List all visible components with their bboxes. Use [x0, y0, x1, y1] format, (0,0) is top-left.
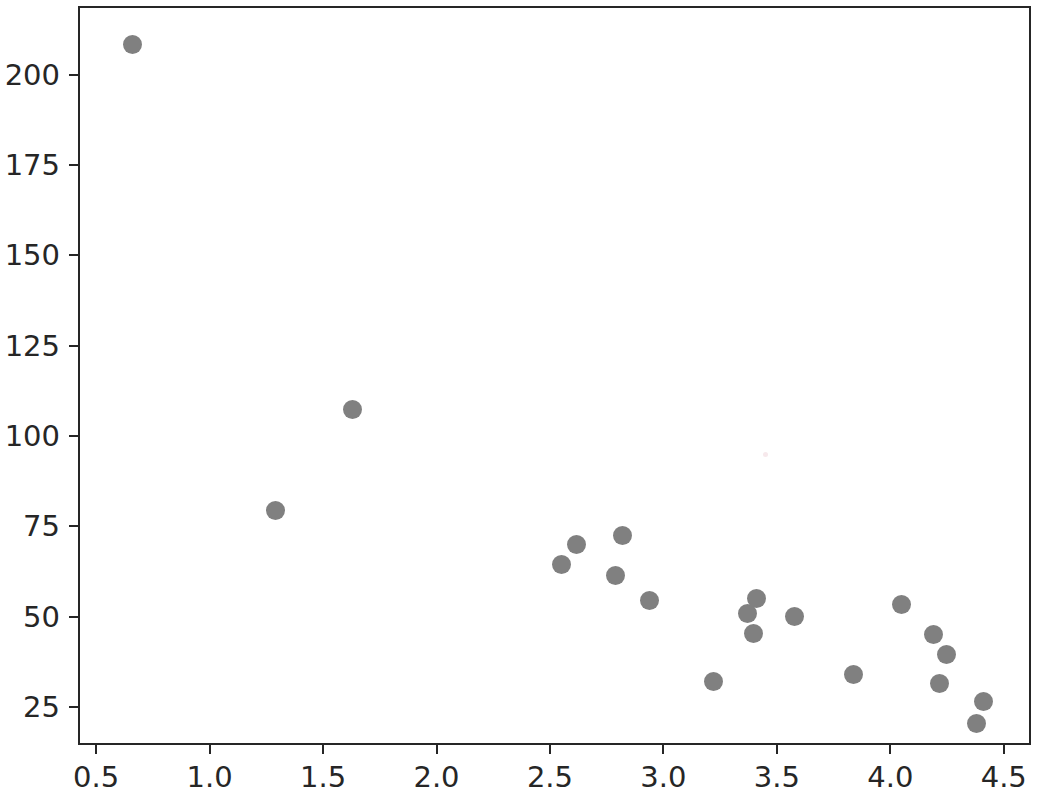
y-tick-label: 100 [5, 422, 60, 451]
data-point [892, 595, 911, 614]
x-tick-label: 1.0 [187, 763, 233, 792]
x-tick-mark [209, 745, 211, 754]
x-tick-label: 2.0 [413, 763, 459, 792]
y-tick-mark [69, 345, 78, 347]
y-tick-label: 175 [5, 151, 60, 180]
data-point [937, 645, 956, 664]
data-point [640, 591, 659, 610]
data-point [844, 665, 863, 684]
y-tick-mark [69, 616, 78, 618]
y-tick-label: 25 [23, 693, 60, 722]
x-tick-mark [889, 745, 891, 754]
y-tick-mark [69, 706, 78, 708]
x-tick-mark [1003, 745, 1005, 754]
y-tick-mark [69, 435, 78, 437]
x-tick-label: 3.5 [754, 763, 800, 792]
x-tick-mark [662, 745, 664, 754]
x-tick-label: 1.5 [300, 763, 346, 792]
x-tick-label: 4.0 [867, 763, 913, 792]
x-tick-label: 3.0 [640, 763, 686, 792]
plot-area [78, 6, 1031, 745]
data-point [552, 555, 571, 574]
data-point [785, 607, 804, 626]
data-point [967, 714, 986, 733]
y-tick-label: 200 [5, 60, 60, 89]
data-point [747, 589, 766, 608]
data-point [744, 624, 763, 643]
y-tick-label: 75 [23, 512, 60, 541]
y-tick-mark [69, 525, 78, 527]
data-point [930, 674, 949, 693]
scatter-chart-figure: 0.51.01.52.02.53.03.54.04.5 255075100125… [0, 0, 1043, 798]
x-tick-mark [776, 745, 778, 754]
y-tick-label: 125 [5, 331, 60, 360]
x-tick-mark [322, 745, 324, 754]
x-tick-mark [95, 745, 97, 754]
x-tick-label: 2.5 [527, 763, 573, 792]
y-tick-label: 50 [23, 602, 60, 631]
data-point [974, 692, 993, 711]
x-tick-mark [549, 745, 551, 754]
data-point [924, 625, 943, 644]
data-point [567, 535, 586, 554]
x-tick-label: 0.5 [73, 763, 119, 792]
y-tick-mark [69, 164, 78, 166]
x-tick-label: 4.5 [981, 763, 1027, 792]
plot-artifact [763, 452, 768, 457]
y-tick-mark [69, 74, 78, 76]
data-point [123, 35, 142, 54]
data-point [613, 526, 632, 545]
data-point [266, 501, 285, 520]
y-tick-label: 150 [5, 241, 60, 270]
y-tick-mark [69, 254, 78, 256]
data-point [343, 400, 362, 419]
data-point [606, 566, 625, 585]
data-point [704, 672, 723, 691]
x-tick-mark [436, 745, 438, 754]
